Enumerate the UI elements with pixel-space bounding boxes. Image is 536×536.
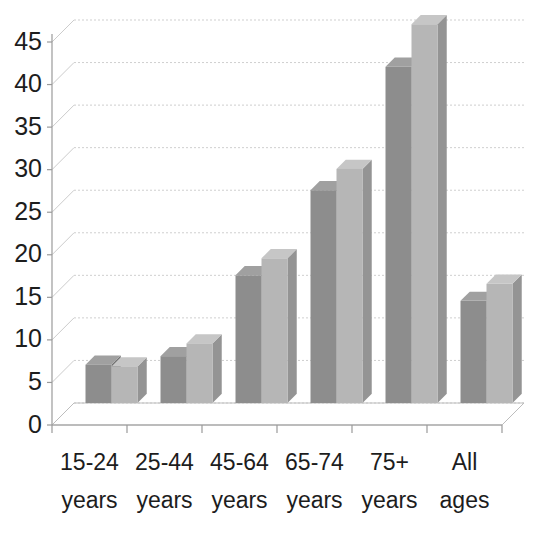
bar-front-face — [311, 190, 337, 403]
y-axis-tick-label: 20 — [14, 239, 42, 267]
bar-front-face — [112, 366, 138, 403]
bar — [262, 249, 297, 403]
y-axis-tick-label: 5 — [28, 367, 42, 395]
bar-front-face — [236, 275, 262, 403]
bar-front-face — [412, 24, 438, 403]
y-axis-tick-label: 30 — [14, 154, 42, 182]
y-axis-tick-label: 35 — [14, 112, 42, 140]
bar — [337, 160, 372, 403]
chart-container: 051015202530354045 15-24years25-44years4… — [0, 0, 536, 536]
bar — [487, 275, 522, 403]
bar — [412, 15, 447, 403]
bar-front-face — [337, 169, 363, 403]
bar-front-face — [262, 258, 288, 403]
bar-front-face — [161, 356, 187, 403]
y-axis-tick-label: 15 — [14, 282, 42, 310]
bar-front-face — [461, 301, 487, 403]
y-axis-tick-label: 10 — [14, 324, 42, 352]
bar-side-face — [438, 15, 447, 403]
y-axis-tick-label: 0 — [28, 410, 42, 438]
bar-front-face — [386, 67, 412, 403]
bar-side-face — [288, 249, 297, 403]
bar-front-face — [86, 365, 112, 403]
bar-chart: 051015202530354045 15-24years25-44years4… — [0, 0, 536, 536]
y-axis-tick-label: 40 — [14, 69, 42, 97]
bar-side-face — [363, 160, 372, 403]
bar-side-face — [513, 275, 522, 403]
bar — [112, 357, 147, 403]
y-axis-tick-label: 25 — [14, 197, 42, 225]
bar — [187, 334, 222, 403]
y-axis-tick-label: 45 — [14, 27, 42, 55]
bar-side-face — [213, 334, 222, 403]
bar-front-face — [187, 343, 213, 403]
bar-front-face — [487, 284, 513, 403]
